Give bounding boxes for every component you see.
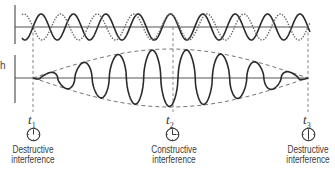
t1-caption: Destructive interference [11,145,55,165]
clock-icon [165,127,180,142]
side-label: h [0,60,6,71]
envelope-upper [33,49,308,78]
t2-caption: Constructive interference [149,145,198,165]
t3-caption: Destructive interference [286,145,330,165]
clock-icon [26,127,41,142]
clock-icon [301,127,316,142]
